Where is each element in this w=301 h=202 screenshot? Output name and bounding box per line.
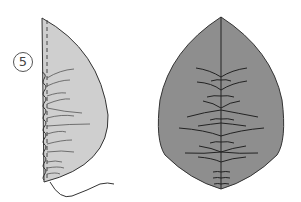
step-number-badge: 5 bbox=[13, 52, 33, 72]
half-leaf-shape bbox=[42, 18, 108, 182]
diagram-canvas bbox=[0, 0, 301, 202]
half-leaf-figure bbox=[42, 18, 114, 197]
full-leaf-figure bbox=[158, 17, 283, 189]
thread-tail bbox=[50, 182, 114, 197]
